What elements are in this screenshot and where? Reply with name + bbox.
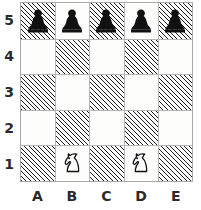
board-square-c4[interactable]: [89, 39, 123, 75]
board-square-b3[interactable]: [55, 74, 89, 110]
board-square-a1[interactable]: [21, 145, 55, 181]
board-square-c3[interactable]: [89, 74, 123, 110]
board-grid-line-vertical: [55, 3, 56, 181]
board-grid-line-horizontal: [21, 39, 192, 40]
file-label-a: A: [20, 184, 55, 208]
file-label-e: E: [158, 184, 193, 208]
board-square-a5[interactable]: [21, 3, 55, 39]
board-square-a3[interactable]: [21, 74, 55, 110]
board-square-d2[interactable]: [124, 110, 158, 146]
board-grid-line-horizontal: [21, 145, 192, 146]
board-square-e5[interactable]: [158, 3, 192, 39]
board-square-b4[interactable]: [55, 39, 89, 75]
board-square-b5[interactable]: [55, 3, 89, 39]
file-label-c: C: [89, 184, 124, 208]
board-square-e3[interactable]: [158, 74, 192, 110]
board-grid-line-vertical: [158, 3, 159, 181]
board-grid-line-vertical: [89, 3, 90, 181]
board-square-c5[interactable]: [89, 3, 123, 39]
board-grid-line-horizontal: [21, 74, 192, 75]
rank-label-4: 4: [0, 38, 18, 74]
board-square-b1[interactable]: [55, 145, 89, 181]
board-grid-line-horizontal: [21, 110, 192, 111]
board-square-c1[interactable]: [89, 145, 123, 181]
board-grid: [21, 3, 192, 181]
file-label-d: D: [124, 184, 159, 208]
board-square-e1[interactable]: [158, 145, 192, 181]
rank-label-column: 5 4 3 2 1: [0, 2, 18, 182]
board-square-d3[interactable]: [124, 74, 158, 110]
board-square-b2[interactable]: [55, 110, 89, 146]
board-grid-line-vertical: [124, 3, 125, 181]
board-square-e2[interactable]: [158, 110, 192, 146]
board-square-d5[interactable]: [124, 3, 158, 39]
board-square-d1[interactable]: [124, 145, 158, 181]
board-square-c2[interactable]: [89, 110, 123, 146]
rank-label-3: 3: [0, 74, 18, 110]
board-square-a2[interactable]: [21, 110, 55, 146]
file-label-b: B: [55, 184, 90, 208]
board-square-a4[interactable]: [21, 39, 55, 75]
rank-label-5: 5: [0, 2, 18, 38]
chess-board[interactable]: [20, 2, 193, 182]
file-label-row: A B C D E: [20, 184, 193, 208]
rank-label-2: 2: [0, 110, 18, 146]
chess-diagram: 5 4 3 2 1: [0, 0, 201, 210]
board-square-d4[interactable]: [124, 39, 158, 75]
board-square-e4[interactable]: [158, 39, 192, 75]
rank-label-1: 1: [0, 146, 18, 182]
